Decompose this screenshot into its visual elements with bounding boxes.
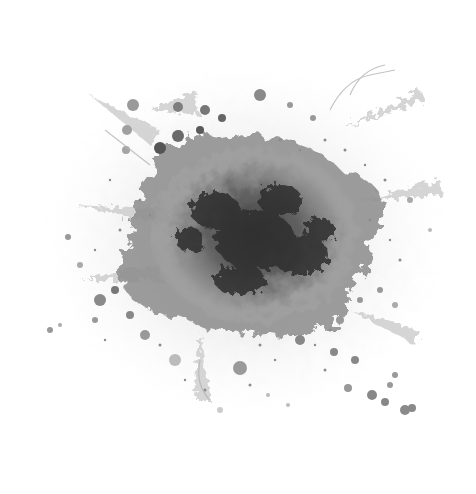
splatter-image xyxy=(0,0,476,494)
ink-splatter-graphic xyxy=(0,0,476,494)
